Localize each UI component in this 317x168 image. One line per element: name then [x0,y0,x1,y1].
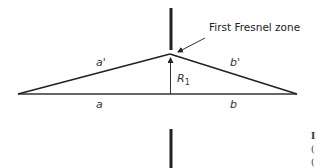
edge-text-fragment: ( [311,142,315,156]
label-b: b [230,98,237,111]
path-a-prime [18,54,170,94]
callout-arrow [178,38,205,52]
first-fresnel-zone-label: First Fresnel zone [209,21,300,33]
label-a: a [96,98,103,111]
label-a-prime: a' [96,56,106,69]
label-b-prime: b' [230,56,240,69]
edge-text-fragment: ( [311,155,315,168]
label-r1: R1 [177,72,190,87]
edge-text-fragment: I [311,129,315,143]
label-r1-sub: 1 [185,78,190,87]
label-r1-main: R [177,72,185,85]
